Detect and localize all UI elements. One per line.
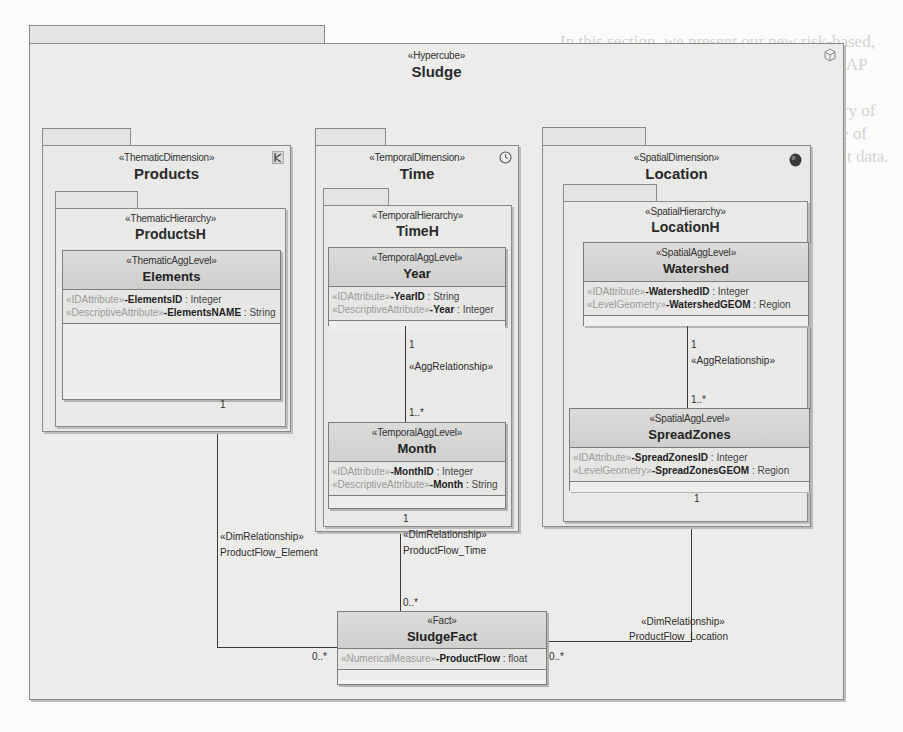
watershed-operations [584,316,808,326]
attribute-row[interactable]: «NumericalMeasure»-ProductFlow : float [341,652,543,665]
month-name: Month [331,441,503,456]
fact-name: SludgeFact [340,629,544,644]
month-stereotype: «TemporalAggLevel» [331,427,503,438]
hypercube-stereotype: «Hypercube» [30,50,843,61]
clock-icon [499,151,512,164]
elements-operations [63,324,280,398]
dim-relationship-element-line-v [217,400,218,647]
attribute-row[interactable]: «IDAttribute»-SpreadZonesID : Integer [573,451,806,464]
hypercube-package-tab [29,25,325,44]
time-package-tab [315,128,386,146]
dim-relationship-time-fact-mult: 0..* [403,596,418,609]
globe-icon [789,153,802,167]
dim-relationship-time-stereotype: «DimRelationship» [403,528,487,541]
fact-operations [338,670,546,680]
spreadzones-stereotype: «SpatialAggLevel» [572,413,807,424]
location-agg-lower-mult: 1..* [691,393,706,406]
location-agg-relationship-line [687,326,688,408]
timeh-name: TimeH [324,223,511,239]
year-class[interactable]: «TemporalAggLevel» Year «IDAttribute»-Ye… [328,247,506,326]
time-stereotype: «TemporalDimension» [316,152,518,163]
attribute-row[interactable]: «IDAttribute»-WatershedID : Integer [587,285,805,298]
dim-relationship-element-fact-mult: 0..* [312,650,327,663]
time-agg-lower-mult: 1..* [409,406,424,419]
sludgefact-class[interactable]: «Fact» SludgeFact «NumericalMeasure»-Pro… [337,611,547,685]
month-class[interactable]: «TemporalAggLevel» Month «IDAttribute»-M… [328,422,506,509]
attribute-row[interactable]: «LevelGeometry»-SpreadZonesGEOM : Region [573,464,806,477]
attribute-row[interactable]: «DescriptiveAttribute»-Year : Integer [332,303,502,316]
elements-name: Elements [65,269,278,284]
location-agg-stereotype: «AggRelationship» [691,354,775,367]
products-package-tab [42,128,131,146]
dim-relationship-element-line-h [217,647,337,648]
productsh-stereotype: «ThematicHierarchy» [56,213,285,224]
productsh-name: ProductsH [56,226,285,242]
year-operations [329,321,505,331]
attribute-row[interactable]: «IDAttribute»-YearID : String [332,290,502,303]
locationh-package-tab [563,184,657,202]
products-stereotype: «ThematicDimension» [43,152,290,163]
time-agg-upper-mult: 1 [409,338,415,351]
attribute-row[interactable]: «IDAttribute»-ElementsID : Integer [66,293,277,306]
spreadzones-name: SpreadZones [572,427,807,442]
timeh-package-tab [323,188,389,206]
watershed-class[interactable]: «SpatialAggLevel» Watershed «IDAttribute… [583,242,809,326]
dim-relationship-time-name: ProductFlow_Time [403,544,486,557]
locationh-name: LocationH [564,219,807,235]
dim-relationship-location-dim-mult: 1 [694,492,700,505]
location-name: Location [543,165,810,182]
time-name: Time [316,165,518,182]
watershed-stereotype: «SpatialAggLevel» [586,247,806,258]
dim-relationship-location-fact-mult: 0..* [549,650,564,663]
thematic-icon [272,151,284,164]
dim-relationship-location-name: ProductFlow_Location [629,630,728,643]
dim-relationship-element-name: ProductFlow_Element [220,546,318,559]
dim-relationship-location-stereotype: «DimRelationship» [641,615,725,628]
products-name: Products [43,165,290,182]
spreadzones-class[interactable]: «SpatialAggLevel» SpreadZones «IDAttribu… [569,408,810,491]
elements-class[interactable]: «ThematicAggLevel» Elements «IDAttribute… [62,250,281,400]
dim-relationship-time-dim-mult: 1 [403,512,409,525]
dim-relationship-element-dim-mult: 1 [220,398,226,411]
time-agg-stereotype: «AggRelationship» [409,360,493,373]
attribute-row[interactable]: «IDAttribute»-MonthID : Integer [332,465,502,478]
elements-stereotype: «ThematicAggLevel» [65,255,278,266]
location-stereotype: «SpatialDimension» [543,152,810,163]
hypercube-name: Sludge [30,63,843,80]
time-agg-relationship-line [405,326,406,422]
attribute-row[interactable]: «DescriptiveAttribute»-ElementsNAME : St… [66,306,277,319]
location-package-tab [542,127,646,146]
fact-stereotype: «Fact» [340,615,544,626]
watershed-name: Watershed [586,261,806,276]
dim-relationship-element-stereotype: «DimRelationship» [220,530,304,543]
location-agg-upper-mult: 1 [691,338,697,351]
timeh-stereotype: «TemporalHierarchy» [324,210,511,221]
cube-icon [823,48,837,62]
locationh-stereotype: «SpatialHierarchy» [564,206,807,217]
attribute-row[interactable]: «LevelGeometry»-WatershedGEOM : Region [587,298,805,311]
attribute-row[interactable]: «DescriptiveAttribute»-Month : String [332,478,502,491]
year-name: Year [331,266,503,281]
year-stereotype: «TemporalAggLevel» [331,252,503,263]
month-operations [329,496,505,508]
productsh-package-tab [55,191,138,209]
spreadzones-operations [570,482,809,492]
